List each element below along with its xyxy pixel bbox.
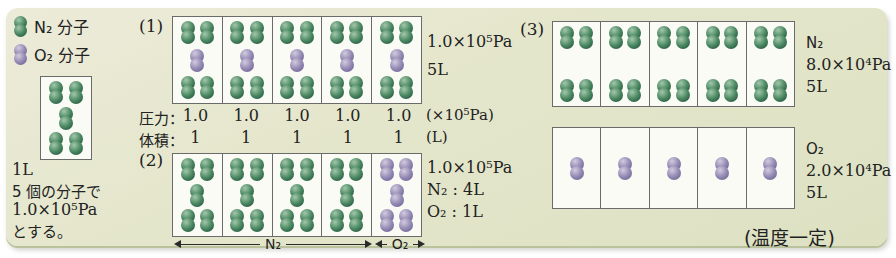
- n2-molecule: [69, 81, 83, 104]
- n2-gas-label: N₂: [806, 32, 891, 54]
- value-cell: 1.0: [322, 106, 373, 125]
- n2-molecule: [250, 158, 264, 181]
- o2-molecule: [190, 49, 204, 72]
- gas-box: [222, 153, 273, 237]
- n2-molecule: [330, 209, 344, 232]
- n2-molecule: [706, 79, 720, 102]
- n2-molecule: [627, 26, 641, 49]
- o2-molecule: [380, 158, 394, 181]
- n2-molecule: [200, 209, 214, 232]
- n2-molecule: [380, 76, 394, 99]
- n2-molecule: [754, 79, 768, 102]
- n2-molecule: [754, 26, 768, 49]
- value-cell: 1.0: [272, 106, 323, 125]
- section3-label: (3): [520, 19, 544, 39]
- n2-molecule: [230, 158, 244, 181]
- section3-o2-info: O₂ 2.0×10⁴Pa 5L: [806, 138, 891, 204]
- gas-box: [272, 153, 323, 237]
- n2-molecule: [380, 21, 394, 44]
- gas-box: [697, 127, 746, 209]
- o2-gas-label: O₂: [806, 138, 891, 160]
- o2-molecule: [715, 157, 729, 180]
- n2-molecule: [609, 79, 623, 102]
- gas-box: [40, 76, 92, 160]
- n2-molecule: [250, 209, 264, 232]
- n2-molecule: [181, 76, 195, 99]
- section3-o2-boxes: [552, 127, 795, 209]
- o2-molecule: [380, 209, 394, 232]
- n2-molecule: [280, 158, 294, 181]
- arrow-left-head: [174, 240, 181, 248]
- n2-molecule: [349, 158, 363, 181]
- section1-label: (1): [139, 16, 163, 36]
- n2-molecule: [181, 158, 195, 181]
- n2-extent-arrow: N₂: [174, 237, 372, 251]
- sample-desc-3: とする。: [12, 220, 72, 241]
- n2-molecule: [676, 79, 690, 102]
- section1-boxes: [172, 16, 422, 104]
- arrow-left-head: [375, 240, 382, 248]
- o2-molecule: [290, 49, 304, 72]
- section3-n2-boxes: [552, 21, 795, 107]
- gas-box: [172, 16, 223, 104]
- figure-card: N₂ 分子 O₂ 分子 1L 5 個の分子で 1.0×10⁵Pa とする。 (1…: [6, 8, 887, 246]
- legend-n2-label: N₂ 分子: [34, 14, 89, 38]
- gas-box: [222, 16, 273, 104]
- gas-box: [321, 153, 372, 237]
- gas-box: [371, 153, 422, 237]
- sample-volume: 1L: [12, 160, 33, 179]
- gas-box: [649, 127, 698, 209]
- n2-molecule: [230, 209, 244, 232]
- n2-molecule: [399, 21, 413, 44]
- n2-molecule: [330, 76, 344, 99]
- o2-molecule: [390, 49, 404, 72]
- o2-arrow-label: O₂: [387, 237, 414, 251]
- n2-molecule: [724, 26, 738, 49]
- volume-row-unit: (L): [426, 128, 448, 146]
- value-cell: 1.0: [221, 106, 272, 125]
- n2-molecule: [579, 26, 593, 49]
- n2-molecule: [657, 26, 671, 49]
- o2-extent-arrow: O₂: [375, 237, 425, 251]
- n2-molecule: [200, 21, 214, 44]
- o2-molecule: [399, 158, 413, 181]
- sample-desc-pressure: 1.0×10⁵Pa: [12, 200, 97, 219]
- n2-molecule: [69, 132, 83, 155]
- section2-n2-volume: N₂ : 4L: [427, 180, 484, 199]
- legend-n2: N₂ 分子: [14, 14, 89, 38]
- n2-molecule: [773, 79, 787, 102]
- n2-molecule: [300, 209, 314, 232]
- legend-o2: O₂ 分子: [14, 42, 90, 66]
- volume-row-values: 11111: [170, 128, 424, 147]
- o2-molecule: [340, 49, 354, 72]
- n2-molecule: [280, 76, 294, 99]
- pressure-row-unit: (×10⁵Pa): [426, 106, 494, 124]
- pressure-row-values: 1.01.01.01.01.0: [170, 106, 424, 125]
- n2-molecule: [330, 21, 344, 44]
- n2-molecule: [49, 81, 63, 104]
- gas-box: [272, 16, 323, 104]
- n2-molecule: [200, 158, 214, 181]
- arrow-right-head: [418, 240, 425, 248]
- gas-box: [746, 21, 795, 107]
- n2-molecule: [300, 21, 314, 44]
- o2-molecule: [570, 157, 584, 180]
- n2-molecule: [300, 76, 314, 99]
- n2-arrow-label: N₂: [260, 237, 286, 251]
- gas-box: [649, 21, 698, 107]
- n2-molecule: [59, 107, 73, 130]
- gas-box: [697, 21, 746, 107]
- o2-molecule: [763, 157, 777, 180]
- n2-molecule: [190, 184, 204, 207]
- gas-box: [552, 127, 601, 209]
- n2-pressure: 8.0×10⁴Pa: [806, 54, 891, 76]
- n2-molecule: [200, 76, 214, 99]
- n2-molecule: [349, 76, 363, 99]
- n2-molecule: [290, 184, 304, 207]
- n2-molecule: [340, 184, 354, 207]
- section2-label: (2): [139, 150, 163, 170]
- n2-molecule: [330, 158, 344, 181]
- n2-molecule: [280, 21, 294, 44]
- sample-box: [40, 76, 92, 160]
- n2-molecule: [181, 209, 195, 232]
